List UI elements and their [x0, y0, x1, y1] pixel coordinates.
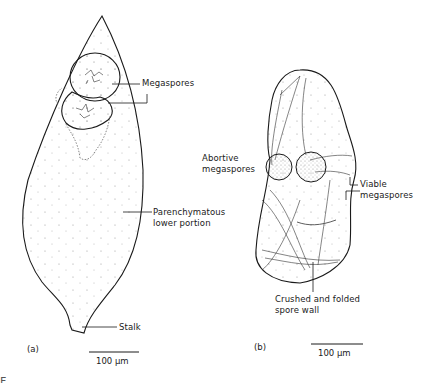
panel-a-drawing	[23, 16, 152, 352]
label-megaspores: Megaspores	[142, 78, 194, 88]
scale-label-b: 100 µm	[318, 348, 351, 358]
label-parenchymatous-line2: lower portion	[153, 218, 211, 228]
label-abortive-line2: megaspores	[202, 164, 255, 174]
panel-label-a: (a)	[27, 344, 39, 354]
scale-label-a: 100 µm	[96, 356, 129, 366]
abortive-megaspore-right	[296, 152, 326, 182]
label-crushed-line1: Crushed and folded	[275, 294, 360, 304]
megaspore-upper	[70, 53, 120, 101]
label-stalk: Stalk	[119, 322, 141, 332]
figure-caption-partial: F . . . . . .	[0, 374, 434, 383]
label-crushed-line2: spore wall	[275, 305, 319, 315]
label-parenchymatous-line1: Parenchymatous	[153, 207, 225, 217]
label-abortive-line1: Abortive	[202, 153, 239, 163]
abortive-megaspore-left	[266, 154, 292, 180]
panel-label-b: (b)	[254, 342, 266, 352]
label-viable-line2: megaspores	[360, 190, 413, 200]
label-viable-line1: Viable	[360, 179, 387, 189]
